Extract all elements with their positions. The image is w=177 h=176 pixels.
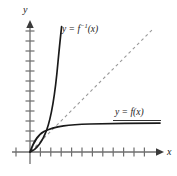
inverse-function-graph-figure: y x y = f−1(x) y = f(x) <box>0 0 177 176</box>
curve-f-of-x <box>30 123 160 152</box>
x-axis-arrowhead <box>156 148 164 156</box>
curve-f-inverse-of-x <box>30 27 62 153</box>
inverse-label-exponent: −1 <box>80 22 88 29</box>
function-curve-label: y = f(x) <box>115 108 144 118</box>
y-axis-label: y <box>23 5 27 15</box>
inverse-function-curve-label: y = f−1(x) <box>62 25 98 35</box>
inverse-label-suffix: (x) <box>88 24 99 34</box>
x-axis-label: x <box>167 147 171 157</box>
y-axis-arrowhead <box>26 20 33 28</box>
inverse-label-prefix: y = f <box>62 24 80 34</box>
identity-line-y-equals-x <box>31 30 152 151</box>
